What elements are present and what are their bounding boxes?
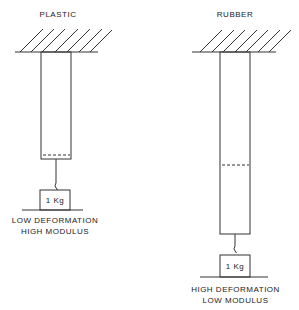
plastic-title: PLASTIC	[28, 10, 88, 19]
rubber-weight-label: 1 Kg	[220, 262, 250, 271]
plastic-caption-line2: HIGH MODULUS	[5, 227, 105, 236]
plastic-hook	[55, 159, 57, 190]
plastic-bar	[41, 52, 71, 159]
diagram-canvas	[0, 0, 299, 310]
rubber-title: RUBBER	[205, 10, 265, 19]
plastic-caption-line1: LOW DEFORMATION	[5, 216, 105, 225]
rubber-ceiling-hatch	[192, 30, 291, 52]
rubber-caption-line2: LOW MODULUS	[183, 296, 288, 305]
plastic-weight-label: 1 Kg	[40, 196, 70, 205]
rubber-caption-line1: HIGH DEFORMATION	[183, 285, 288, 294]
rubber-hook	[234, 234, 236, 253]
plastic-ceiling-hatch	[15, 29, 112, 52]
rubber-bar	[220, 52, 250, 234]
